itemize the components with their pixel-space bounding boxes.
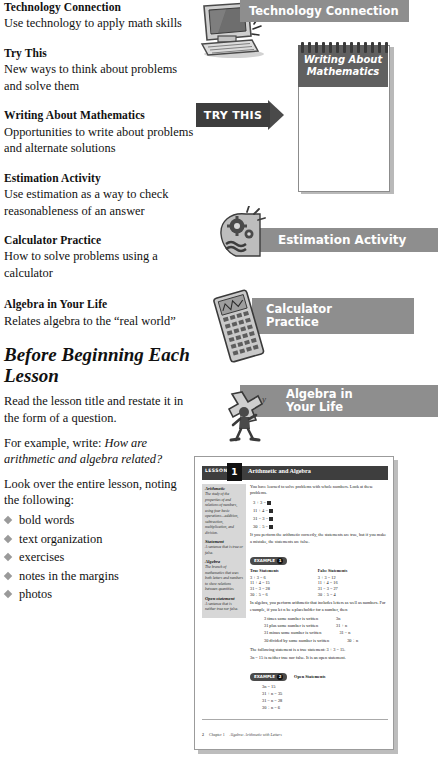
equation-text: 30 ÷ 5 = (253, 524, 268, 529)
calculator-practice-banner: Calculator Practice (252, 298, 414, 334)
phrase-value: 31 + n (336, 622, 347, 629)
phrase-line: 31 plus some number is written31 + n (250, 622, 388, 629)
arrow-icon (268, 100, 284, 130)
notepad-title: Writing About Mathematics (304, 54, 382, 78)
page-footer: 2Chapter 1Algebra: Arithmetic with Lette… (202, 719, 388, 740)
feature-try-this: Try This New ways to think about problem… (4, 46, 194, 94)
feature-desc: How to solve problems using a calculator (4, 248, 194, 281)
technology-connection-banner: Technology Connection (240, 0, 409, 22)
feature-desc: Relates algebra to the “real world” (4, 313, 194, 330)
phrase-text: 30 divided by some number is written (264, 638, 329, 643)
list-item: exercises (4, 548, 194, 567)
glossary-term: Open statement (205, 596, 243, 601)
illustration-column: Technology Connection Writing About Math… (196, 0, 400, 760)
after-equations-text: If you perform the arithmetic correctly,… (250, 532, 388, 545)
try-this-badge: TRY THIS (196, 100, 296, 130)
try-this-label: TRY THIS (196, 103, 270, 127)
glossary-term: Arithmetic (205, 486, 243, 491)
glossary-term: Statement (205, 539, 243, 544)
answer-box-icon (267, 501, 271, 505)
feature-desc: Opportunities to write about problems an… (4, 124, 194, 157)
open-statement-para-2: 3n = 15 is neither true nor false. It is… (250, 655, 388, 662)
footer-title: Algebra: Arithmetic with Letters (230, 732, 282, 737)
glossary-definition: A sentence that is true or false. (205, 545, 243, 556)
equation-text: 11 + 4 = (253, 508, 268, 513)
answer-box-icon (269, 517, 273, 521)
open-statement-item: 31 − n = 28 (262, 697, 388, 704)
answer-box-icon (269, 525, 273, 529)
feature-title: Writing About Mathematics (4, 108, 194, 122)
equation-line: 3 + 3 = (250, 499, 388, 507)
algebra-line-2: Your Life (286, 400, 343, 414)
before-lesson-para-3: Look over the entire lesson, noting the … (4, 476, 194, 509)
phrase-value: 30 ÷ n (347, 637, 358, 644)
person-carrying-variables-icon: y (226, 388, 282, 444)
false-cell: 30 ÷ 5 = 4 (310, 592, 388, 598)
example-1-block: EXAMPLE1 True Statements False Statement… (250, 548, 388, 597)
phrase-line: 3 times some number is written3n (250, 615, 388, 622)
textbook-page-thumbnail: LESSON 1 Arithmetic and Algebra Arithmet… (194, 456, 398, 754)
bullet-label: text organization (19, 532, 102, 546)
lesson-word-label: LESSON (205, 468, 228, 473)
table-row: 30 ÷ 5 = 630 ÷ 5 = 4 (250, 592, 388, 598)
open-statements-header: Open Statements (294, 674, 325, 679)
diamond-bullet-icon (4, 516, 12, 524)
feature-desc: Use estimation as a way to check reasona… (4, 186, 194, 219)
phrase-text: 31 plus some number is written (264, 623, 318, 628)
noting-bullet-list: bold words text organization exercises n… (4, 511, 194, 604)
feature-title: Algebra in Your Life (4, 297, 194, 311)
diamond-bullet-icon (4, 534, 12, 542)
glossary-definition: The study of the properties of and relat… (205, 492, 243, 536)
diamond-bullet-icon (4, 553, 12, 561)
list-item: text organization (4, 530, 194, 549)
example-number: 2 (277, 674, 283, 680)
bullet-label: photos (19, 587, 52, 601)
true-false-table: True Statements False Statements 3 + 3 =… (250, 568, 388, 597)
feature-technology-connection: Technology Connection Use technology to … (4, 0, 194, 32)
feature-writing-about-mathematics: Writing About Mathematics Opportunities … (4, 108, 194, 156)
diamond-bullet-icon (4, 590, 12, 598)
equation-line: 11 + 4 = (250, 507, 388, 515)
algebra-paragraph: In algebra, you perform arithmetic that … (250, 600, 388, 613)
example-number: 1 (277, 558, 283, 564)
equation-text: 31 − 3 = (253, 516, 268, 521)
feature-estimation-activity: Estimation Activity Use estimation as a … (4, 171, 194, 219)
before-lesson-para-1: Read the lesson title and restate it in … (4, 393, 194, 426)
phrase-text: 3 times some number is written (264, 616, 318, 621)
bullet-label: exercises (19, 550, 64, 564)
phrase-line: 31 minus some number is written31 − n (250, 629, 388, 636)
list-item: notes in the margins (4, 567, 194, 586)
lesson-main-column: You have learned to solve problems with … (250, 484, 388, 711)
feature-title: Estimation Activity (4, 171, 194, 185)
feature-title: Technology Connection (4, 0, 194, 14)
thinking-head-gear-icon (216, 206, 278, 260)
lesson-intro: You have learned to solve problems with … (250, 484, 388, 497)
example-tag: EXAMPLE1 (250, 557, 287, 565)
page-number: 2 (202, 732, 204, 737)
diamond-bullet-icon (4, 572, 12, 580)
glossary-box: Arithmetic The study of the properties o… (202, 484, 246, 618)
example-tag: EXAMPLE2 (250, 673, 287, 681)
banner-label: Estimation Activity (278, 233, 406, 247)
feature-desc: Use technology to apply math skills (4, 15, 194, 32)
list-item: bold words (4, 511, 194, 530)
calculator-icon (208, 287, 270, 367)
bullet-label: notes in the margins (19, 569, 119, 583)
open-statements-list: 3n = 15 31 + n = 35 31 − n = 28 30 ÷ n =… (250, 683, 388, 711)
lesson-title: Arithmetic and Algebra (248, 467, 311, 474)
true-cell: 30 ÷ 5 = 6 (250, 592, 310, 598)
before-lesson-para-2: For example, write: How are arithmetic a… (4, 435, 194, 468)
example-2-block: EXAMPLE2 Open Statements 3n = 15 31 + n … (250, 664, 388, 711)
bullet-label: bold words (19, 513, 74, 527)
feature-title: Try This (4, 46, 194, 60)
page-content: LESSON 1 Arithmetic and Algebra Arithmet… (200, 462, 388, 744)
svg-text:y: y (261, 394, 266, 404)
feature-calculator-practice: Calculator Practice How to solve problem… (4, 233, 194, 281)
notepad-line-2: Mathematics (307, 66, 380, 77)
feature-title: Calculator Practice (4, 233, 194, 247)
open-statement-item: 30 ÷ n = 6 (262, 704, 388, 711)
phrase-text: 31 minus some number is written (264, 630, 321, 635)
glossary-definition: The branch of mathematics that uses both… (205, 565, 243, 593)
lesson-number-badge: 1 (227, 463, 242, 481)
